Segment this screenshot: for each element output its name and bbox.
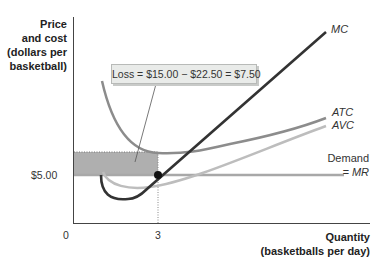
x-axis-title-line: Quantity bbox=[261, 230, 370, 244]
y-tick-price: $5.00 bbox=[31, 169, 57, 181]
y-axis-title-line: (dollars per bbox=[7, 45, 67, 59]
loss-annotation: Loss = $15.00 − $22.50 = $7.50 bbox=[111, 64, 257, 84]
avc-label: AVC bbox=[332, 119, 354, 131]
atc-curve bbox=[102, 81, 326, 153]
x-axis-title-line: (basketballs per day) bbox=[261, 244, 370, 258]
y-axis-title-line: and cost bbox=[7, 31, 67, 45]
loss-area bbox=[74, 152, 158, 175]
demand-label-line: Demand bbox=[327, 151, 369, 165]
y-axis-title-line: basketball) bbox=[7, 59, 67, 73]
x-axis-title: Quantity (basketballs per day) bbox=[261, 230, 370, 258]
x-tick-0: 0 bbox=[63, 229, 69, 241]
mr-label-line: = MR bbox=[327, 165, 369, 179]
demand-mr-label: Demand = MR bbox=[327, 151, 369, 179]
y-axis-title-line: Price bbox=[7, 17, 67, 31]
x-tick-3: 3 bbox=[155, 229, 161, 241]
equilibrium-point bbox=[154, 171, 162, 179]
y-axis-title: Price and cost (dollars per basketball) bbox=[7, 17, 67, 73]
atc-label: ATC bbox=[332, 106, 353, 118]
mc-label: MC bbox=[331, 23, 348, 35]
